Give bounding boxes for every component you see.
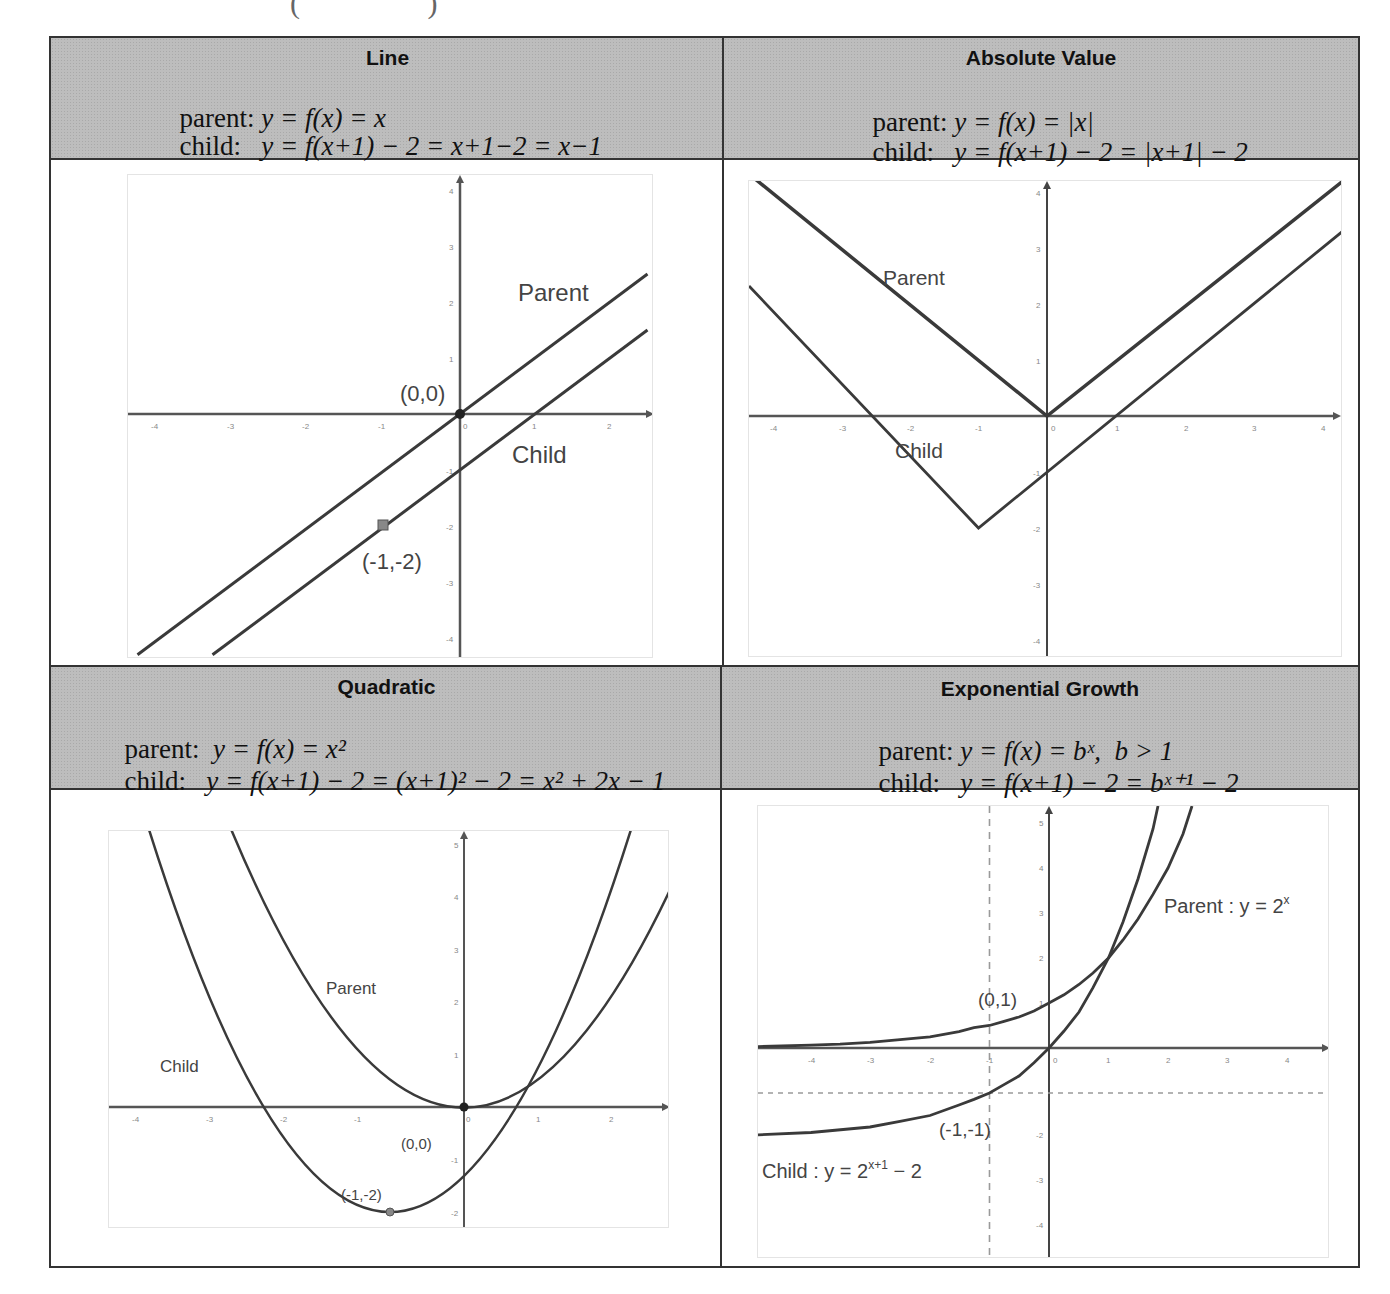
svg-text:2: 2 [449,299,454,308]
exponential-chart-svg: -4-3-2-1 01234 12345 -2-3-4 Parent : y =… [758,806,1329,1258]
svg-text:-4: -4 [151,422,159,431]
svg-text:-2: -2 [446,523,454,532]
svg-text:-4: -4 [446,635,454,644]
svg-text:1: 1 [532,422,537,431]
svg-text:2: 2 [1039,954,1044,963]
svg-text:-2: -2 [1036,1131,1044,1140]
svg-text:-3: -3 [1036,1176,1044,1185]
svg-text:3: 3 [454,946,459,955]
svg-text:-2: -2 [927,1056,935,1065]
title-quadratic: Quadratic [51,675,722,699]
label-point: (-1,-2) [362,549,422,574]
svg-text:4: 4 [1039,864,1044,873]
svg-text:1: 1 [1036,357,1041,366]
svg-text:2: 2 [607,422,612,431]
quadratic-chart-svg: -4-3-2-1 012 12345 -1-2 Parent Child (0,… [109,831,669,1228]
svg-text:-3: -3 [867,1056,875,1065]
svg-text:0: 0 [463,422,468,431]
label-child: Child [895,439,943,462]
svg-text:1: 1 [536,1115,541,1124]
absolute-value-chart-svg: -4-3-2-1 01234 1234 -1-2-3-4 Parent Chil… [749,181,1342,657]
svg-text:-2: -2 [451,1209,459,1218]
svg-text:-2: -2 [302,422,310,431]
title-absolute-value: Absolute Value [724,46,1358,70]
title-exponential-growth: Exponential Growth [722,677,1358,701]
svg-text:-4: -4 [132,1115,140,1124]
label-vertex: (-1,-2) [341,1186,382,1203]
label-parent: Parent [883,266,945,289]
svg-text:0: 0 [1053,1056,1058,1065]
svg-text:-4: -4 [770,424,778,433]
label-parent: Parent : y = 2x [1164,893,1290,917]
graph-line: -4-3-2-1 012 1234 -1-2-3-4 Parent Child … [127,174,653,658]
svg-text:-4: -4 [1036,1221,1044,1230]
column-divider-bottom [720,665,722,1268]
header-absolute-value: Absolute Value parent: y = f(x) = |x| ch… [724,38,1358,160]
svg-text:-4: -4 [1033,637,1041,646]
svg-text:1: 1 [1106,1056,1111,1065]
svg-text:2: 2 [1166,1056,1171,1065]
label-point-0-1: (0,1) [978,989,1017,1010]
svg-text:1: 1 [1115,424,1120,433]
label-point-neg1-neg1: (-1,-1) [939,1119,991,1140]
svg-text:3: 3 [1039,909,1044,918]
label-origin: (0,0) [400,381,445,406]
label-child: Child : y = 2x+1 − 2 [762,1158,922,1182]
svg-text:-1: -1 [378,422,386,431]
column-divider-top [722,38,724,665]
svg-text:1: 1 [454,1051,459,1060]
svg-text:-3: -3 [206,1115,214,1124]
svg-text:-2: -2 [280,1115,288,1124]
svg-text:0: 0 [1051,424,1056,433]
svg-text:-1: -1 [975,424,983,433]
svg-text:3: 3 [1225,1056,1230,1065]
graph-absolute-value: -4-3-2-1 01234 1234 -1-2-3-4 Parent Chil… [748,180,1342,657]
svg-text:-3: -3 [839,424,847,433]
header-exponential-growth: Exponential Growth parent: y = f(x) = bˣ… [722,665,1358,790]
line-chart-svg: -4-3-2-1 012 1234 -1-2-3-4 Parent Child … [128,175,653,658]
svg-text:-1: -1 [451,1156,459,1165]
svg-text:3: 3 [1252,424,1257,433]
svg-text:2: 2 [1184,424,1189,433]
transformations-table: Line parent: y = f(x) = x child: y = f(x… [49,36,1360,1268]
child-eq-quadratic: child: y = f(x+1) − 2 = (x+1)² − 2 = x² … [84,739,665,823]
svg-text:0: 0 [466,1115,471,1124]
svg-text:2: 2 [609,1115,614,1124]
header-line: Line parent: y = f(x) = x child: y = f(x… [51,38,724,160]
svg-text:3: 3 [449,243,454,252]
svg-text:-4: -4 [808,1056,816,1065]
svg-text:-3: -3 [227,422,235,431]
svg-text:1: 1 [449,355,454,364]
svg-text:4: 4 [454,893,459,902]
page-top-fragment: ( ) [290,0,497,20]
svg-text:-3: -3 [1033,581,1041,590]
svg-text:4: 4 [1321,424,1326,433]
svg-text:-2: -2 [1033,525,1041,534]
svg-text:4: 4 [1285,1056,1290,1065]
label-child: Child [160,1057,199,1076]
title-line: Line [51,46,724,70]
label-child: Child [512,441,567,468]
svg-text:-2: -2 [907,424,915,433]
graph-quadratic: -4-3-2-1 012 12345 -1-2 Parent Child (0,… [108,830,669,1228]
svg-text:5: 5 [1039,819,1044,828]
svg-text:-1: -1 [354,1115,362,1124]
svg-text:2: 2 [1036,301,1041,310]
svg-text:3: 3 [1036,245,1041,254]
svg-text:4: 4 [449,187,454,196]
label-parent: Parent [326,979,376,998]
graph-exponential-growth: -4-3-2-1 01234 12345 -2-3-4 Parent : y =… [757,805,1329,1258]
svg-text:5: 5 [454,841,459,850]
label-origin: (0,0) [401,1135,432,1152]
svg-text:2: 2 [454,998,459,1007]
svg-text:4: 4 [1036,189,1041,198]
header-quadratic: Quadratic parent: y = f(x) = x² child: y… [51,665,722,790]
label-parent: Parent [518,279,589,306]
svg-text:-3: -3 [446,579,454,588]
svg-text:-1: -1 [986,1056,994,1065]
